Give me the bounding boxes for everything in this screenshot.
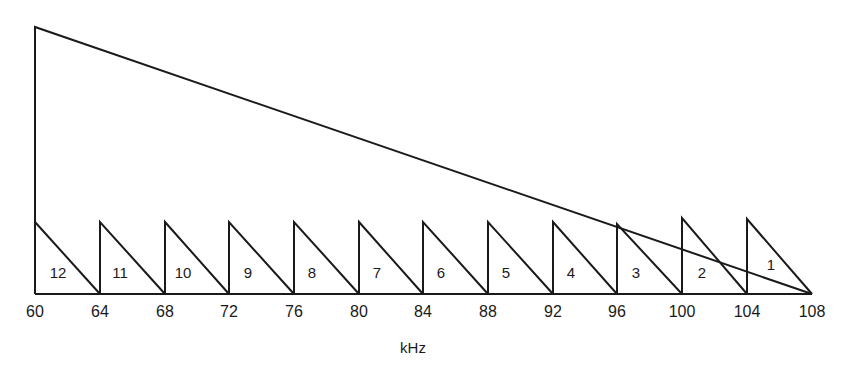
channel-5 [488,222,553,294]
channel-label: 11 [112,264,128,281]
channel-label: 2 [698,264,706,281]
channel-7 [359,222,423,294]
channel-3 [617,224,682,294]
channel-label: 9 [244,264,252,281]
channel-label: 1 [767,256,775,273]
channel-label: 4 [567,264,575,281]
channel-10 [165,222,229,294]
channel-label: 7 [373,264,381,281]
frequency-group-diagram: 12 11 10 9 8 7 6 5 4 3 2 1 60 64 68 72 7… [0,0,862,372]
tick-label: 88 [479,303,497,320]
tick-label: 60 [26,303,44,320]
channel-4 [553,222,617,294]
channel-label: 6 [437,264,445,281]
channel-6 [423,222,488,294]
tick-label: 76 [285,303,303,320]
tick-label: 80 [350,303,368,320]
tick-label: 92 [544,303,562,320]
tick-label: 96 [608,303,626,320]
tick-label: 108 [799,303,826,320]
tick-label: 64 [91,303,109,320]
channel-12 [35,222,100,294]
channel-9 [229,222,294,294]
tick-label: 84 [414,303,432,320]
channel-8 [294,222,359,294]
channel-label: 12 [50,264,67,281]
channel-label: 8 [308,264,316,281]
channel-2 [682,218,747,294]
tick-label: 104 [734,303,761,320]
channel-11 [100,222,165,294]
channel-label: 5 [502,264,510,281]
tick-label: 68 [156,303,174,320]
channel-label: 10 [175,264,192,281]
axis-unit-label: kHz [400,339,426,356]
channel-label: 3 [632,264,640,281]
tick-label: 72 [220,303,238,320]
tick-label: 100 [669,303,696,320]
